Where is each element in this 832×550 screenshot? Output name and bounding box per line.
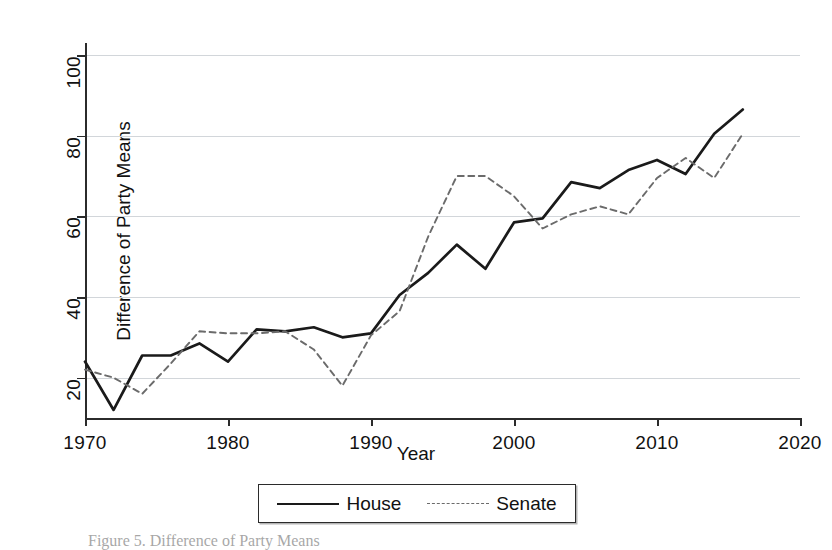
legend-line-solid-icon: [277, 503, 339, 505]
chart-legend: House Senate: [258, 484, 576, 523]
series-line-house: [85, 110, 743, 410]
legend-item-house: House: [277, 493, 401, 515]
y-tick-label: 80: [63, 137, 85, 159]
series-line-senate: [85, 134, 743, 394]
figure-caption: Figure 5. Difference of Party Means: [88, 532, 320, 550]
y-tick-label: 40: [63, 298, 85, 320]
y-tick-label: 100: [63, 56, 85, 89]
x-axis-title: Year: [0, 443, 832, 465]
legend-label-senate: Senate: [496, 493, 556, 515]
y-tick-label: 60: [63, 217, 85, 239]
x-tick-mark: [800, 418, 802, 426]
y-tick-label: 20: [63, 379, 85, 401]
legend-line-dashed-icon: [427, 503, 489, 504]
legend-item-senate: Senate: [427, 493, 556, 515]
y-axis-title-container: Difference of Party Means: [0, 43, 36, 418]
plot-area: 20406080100 197019801990200020102020: [85, 43, 800, 434]
series-canvas: [85, 43, 800, 434]
legend-label-house: House: [346, 493, 401, 515]
